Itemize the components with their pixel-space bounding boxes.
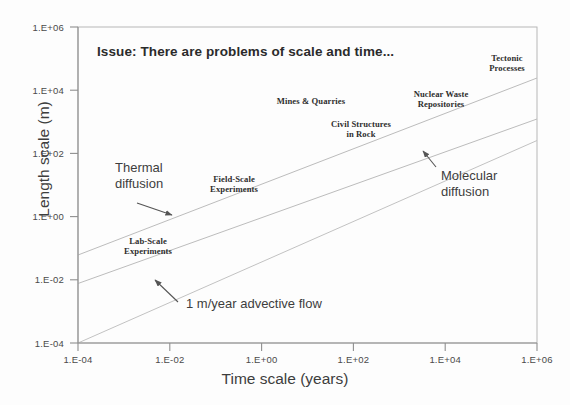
label-field-scale-line1: Field-Scale: [182, 174, 286, 184]
label-advective-flow: 1 m/year advective flow: [186, 296, 322, 312]
label-lab-scale-line1: Lab-Scale: [98, 236, 198, 246]
label-nuclear-waste-repositories: Nuclear Waste Repositories: [388, 89, 494, 109]
label-tectonic-line1: Tectonic: [465, 53, 549, 63]
label-tectonic-processes: Tectonic Processes: [465, 53, 549, 73]
y-tick-label-1em04: 1.E-04: [12, 338, 64, 349]
x-tick-label-1e00: 1.E+00: [232, 354, 292, 365]
arrow-advective-flow: [155, 280, 178, 302]
x-tick-label-1e04: 1.E+04: [415, 354, 475, 365]
label-civil-structures-line2: in Rock: [312, 129, 410, 139]
label-lab-scale-line2: Experiments: [98, 246, 198, 256]
label-molecular-diffusion-line2: diffusion: [441, 184, 497, 200]
trend-line-molecular-diffusion: [78, 119, 537, 284]
label-field-scale-experiments: Field-Scale Experiments: [182, 174, 286, 194]
label-civil-structures-line1: Civil Structures: [312, 119, 410, 129]
chart-headline: Issue: There are problems of scale and t…: [97, 44, 394, 59]
label-mines-quarries: Mines & Quarries: [256, 96, 366, 106]
x-tick-label-1e02: 1.E+02: [323, 354, 383, 365]
label-thermal-diffusion-line1: Thermal: [115, 160, 163, 176]
y-axis: [70, 27, 78, 343]
y-tick-label-1e06: 1.E+06: [12, 22, 64, 33]
x-axis-title: Time scale (years): [0, 370, 570, 388]
label-thermal-diffusion-line2: diffusion: [115, 176, 163, 192]
label-tectonic-line2: Processes: [465, 63, 549, 73]
label-nuclear-waste-line1: Nuclear Waste: [388, 89, 494, 99]
label-thermal-diffusion: Thermal diffusion: [115, 160, 163, 191]
x-axis: [78, 343, 537, 351]
x-tick-label-1e06: 1.E+06: [507, 354, 567, 365]
label-molecular-diffusion-line1: Molecular: [441, 168, 497, 184]
label-civil-structures-in-rock: Civil Structures in Rock: [312, 119, 410, 139]
label-lab-scale-experiments: Lab-Scale Experiments: [98, 236, 198, 256]
y-axis-title: Length scale (m): [35, 79, 53, 239]
label-field-scale-line2: Experiments: [182, 184, 286, 194]
x-tick-label-1em02: 1.E-02: [140, 354, 200, 365]
x-tick-label-1em04: 1.E-04: [48, 354, 108, 365]
label-nuclear-waste-line2: Repositories: [388, 99, 494, 109]
chart-figure: Issue: There are problems of scale and t…: [0, 0, 570, 405]
label-molecular-diffusion: Molecular diffusion: [441, 168, 497, 199]
arrow-thermal-diffusion: [137, 203, 172, 215]
y-tick-label-1em02: 1.E-02: [12, 274, 64, 285]
